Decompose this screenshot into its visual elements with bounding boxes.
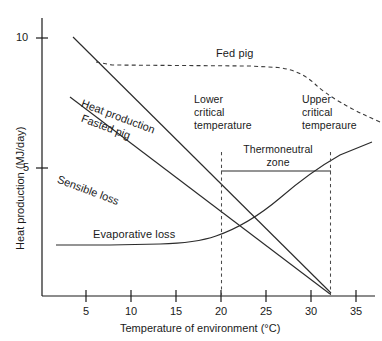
chart-canvas bbox=[0, 0, 382, 341]
chart-figure: 10 5 5 10 15 20 25 30 35 Heat production… bbox=[0, 0, 382, 341]
x-tick-label-5: 5 bbox=[78, 305, 94, 317]
x-tick-label-30: 30 bbox=[303, 305, 319, 317]
x-axis-title: Temperature of environment (°C) bbox=[120, 322, 280, 334]
x-tick-label-20: 20 bbox=[213, 305, 229, 317]
x-tick-label-15: 15 bbox=[168, 305, 184, 317]
x-tick-label-10: 10 bbox=[123, 305, 139, 317]
thermoneutral-zone-label: Thermoneutral zone bbox=[232, 143, 324, 169]
x-tick-label-35: 35 bbox=[348, 305, 364, 317]
y-axis-title: Heat production (MJ/day) bbox=[14, 127, 26, 251]
x-tick-label-25: 25 bbox=[258, 305, 274, 317]
y-tick-label-10: 10 bbox=[16, 31, 28, 43]
evaporative-loss-label: Evaporative loss bbox=[93, 228, 175, 241]
upper-critical-temperature-label: Upper critical temperaure bbox=[302, 93, 357, 131]
fed-pig-label: Fed pig bbox=[216, 47, 253, 60]
lower-critical-temperature-label: Lower critical temperature bbox=[194, 93, 252, 131]
